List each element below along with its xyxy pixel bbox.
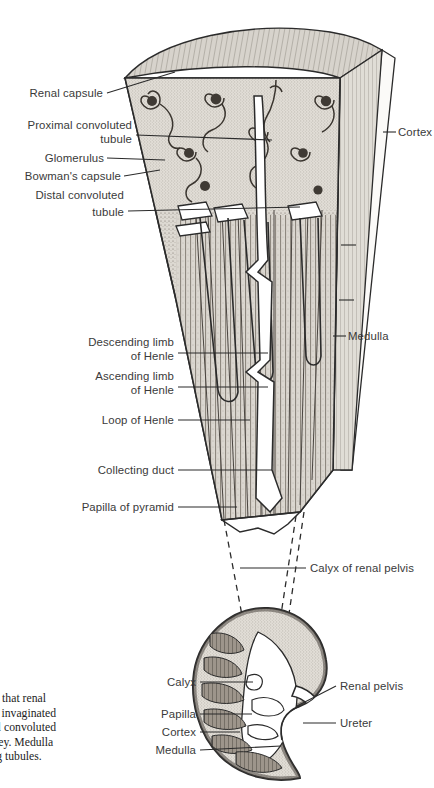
label-papilla-of-pyramid: Papilla of pyramid	[82, 501, 174, 513]
label-descending-limb-line2: of Henle	[131, 350, 174, 362]
label-descending-limb-line1: Descending limb	[88, 336, 174, 348]
label-proximal-convoluted-tubule-line1: Proximal convoluted	[28, 119, 132, 131]
label-renal-pelvis: Renal pelvis	[340, 680, 403, 692]
label-proximal-convoluted-tubule-line2: tubule	[100, 133, 132, 145]
caption-line-1: ge shows that renal	[0, 692, 146, 707]
label-renal-capsule: Renal capsule	[30, 87, 104, 99]
caption-line-3: and distal convoluted	[0, 721, 146, 736]
label-cortex: Cortex	[398, 126, 432, 138]
label-papilla: Papilla	[161, 708, 196, 720]
label-ureter: Ureter	[340, 717, 372, 729]
label-medulla-kidney: Medulla	[155, 744, 196, 756]
label-glomerulus: Glomerulus	[45, 152, 104, 164]
caption-line-2: ules with invaginated	[0, 707, 146, 722]
caption-line-4: x of kidney. Medulla	[0, 736, 146, 751]
label-calyx: Calyx	[167, 676, 196, 688]
figure-caption: ge shows that renal ules with invaginate…	[0, 692, 146, 765]
label-distal-convoluted-tubule-line2: tubule	[92, 206, 124, 218]
kidney-diagram-svg: Renal capsule Proximal convoluted tubule…	[0, 0, 434, 788]
label-ascending-limb-line2: of Henle	[131, 384, 174, 396]
label-medulla: Medulla	[348, 330, 389, 342]
label-cortex-kidney: Cortex	[162, 726, 196, 738]
label-bowmans-capsule: Bowman's capsule	[25, 170, 121, 182]
caption-line-5: collecting tubules.	[0, 750, 146, 765]
figure-canvas: Renal capsule Proximal convoluted tubule…	[0, 0, 434, 788]
label-distal-convoluted-tubule-line1: Distal convoluted	[36, 189, 124, 201]
label-calyx-of-renal-pelvis: Calyx of renal pelvis	[310, 562, 414, 574]
label-loop-of-henle: Loop of Henle	[102, 414, 174, 426]
label-ascending-limb-line1: Ascending limb	[95, 370, 174, 382]
label-collecting-duct: Collecting duct	[98, 464, 175, 476]
